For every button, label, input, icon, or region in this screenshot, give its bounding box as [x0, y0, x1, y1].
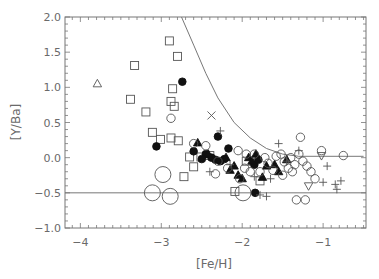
reference-lines	[65, 17, 366, 193]
open-circle-marker	[311, 175, 319, 183]
square-marker	[131, 62, 139, 70]
plus-marker	[250, 173, 258, 181]
square-marker	[165, 37, 173, 45]
open-circle-marker	[296, 133, 304, 141]
plus-marker	[319, 178, 327, 186]
open-circle-marker	[256, 168, 264, 176]
y-tick-label: 1.5	[44, 46, 62, 59]
open-circle-marker	[339, 151, 347, 159]
square-marker	[167, 97, 175, 105]
y-tick-label: 1.0	[44, 81, 62, 94]
x-tick-label: −4	[72, 236, 88, 249]
plus-marker	[333, 185, 341, 193]
square-marker	[173, 52, 181, 60]
y-axis-title: [Y/Ba]	[9, 104, 23, 140]
open-circle-marker	[211, 170, 219, 178]
filled-circle-marker	[179, 78, 187, 86]
large-circle-marker	[162, 188, 178, 204]
square-marker	[156, 135, 164, 143]
square-marker	[167, 134, 175, 142]
square-marker	[190, 163, 198, 171]
y-tick-label: −1.0	[34, 222, 61, 235]
data-points	[93, 37, 347, 204]
large-circle-marker	[155, 167, 171, 183]
plus-marker	[267, 175, 275, 183]
plot-frame	[65, 17, 366, 228]
square-marker	[180, 173, 188, 181]
plus-marker	[337, 177, 345, 185]
y-tick-label: 0.5	[44, 117, 62, 130]
open-triangle-marker	[93, 79, 101, 87]
x-marker	[207, 111, 215, 119]
square-marker	[170, 102, 178, 110]
open-circle-marker	[234, 146, 242, 154]
plot-axes: −4−3−2−1−1.0−0.50.00.51.01.52.0	[34, 11, 366, 249]
plus-marker	[323, 162, 331, 170]
filled-circle-marker	[225, 145, 233, 153]
inverted-triangle-marker	[304, 183, 312, 191]
plus-marker	[206, 168, 214, 176]
plus-marker	[262, 192, 270, 200]
open-circle-marker	[272, 152, 280, 160]
plus-marker	[275, 140, 283, 148]
filled-circle-marker	[153, 143, 161, 151]
x-tick-label: −1	[315, 236, 331, 249]
open-circle-marker	[167, 114, 175, 122]
y-tick-label: 0.0	[44, 152, 62, 165]
open-squares-series	[127, 37, 264, 196]
square-marker	[127, 95, 135, 103]
y-tick-label: −0.5	[34, 187, 61, 200]
plus-marker	[331, 180, 339, 188]
filled-circle-marker	[190, 148, 198, 156]
large-open-circles-series	[144, 167, 251, 205]
open-circle-marker	[301, 196, 309, 204]
plus-marker	[295, 147, 303, 155]
filled-circle-marker	[251, 189, 259, 197]
open-circle-marker	[278, 171, 286, 179]
square-marker	[142, 108, 150, 116]
square-marker	[148, 128, 156, 136]
open-circle-marker	[202, 142, 210, 150]
open-circle-marker	[292, 196, 300, 204]
filled-circles-series	[153, 78, 263, 197]
x-tick-label: −3	[153, 236, 169, 249]
square-marker	[174, 137, 182, 145]
scatter-plot: −4−3−2−1−1.0−0.50.00.51.01.52.0 [Fe/H] […	[0, 0, 379, 279]
x-tick-label: −2	[234, 236, 250, 249]
y-tick-label: 2.0	[44, 11, 62, 24]
square-marker	[169, 85, 177, 93]
x-axis-title: [Fe/H]	[196, 257, 232, 271]
upper-envelope-curve	[182, 17, 364, 156]
figure: −4−3−2−1−1.0−0.50.00.51.01.52.0 [Fe/H] […	[0, 0, 379, 279]
open-circle-marker	[317, 146, 325, 154]
open-triangle-series	[93, 79, 101, 87]
x-marks-series	[207, 111, 215, 119]
